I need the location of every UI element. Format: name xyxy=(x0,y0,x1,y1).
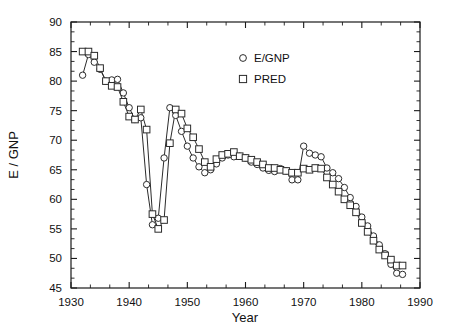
y-axis-title: E / GNP xyxy=(6,131,21,179)
data-point-square xyxy=(161,217,168,224)
x-tick-label: 1990 xyxy=(407,296,433,308)
y-tick-label: 65 xyxy=(49,164,62,176)
data-point-circle xyxy=(79,72,85,78)
data-point-square xyxy=(329,181,336,188)
data-point-circle xyxy=(295,177,301,183)
data-point-square xyxy=(138,106,145,113)
y-tick-label: 90 xyxy=(49,16,62,28)
y-tick-label: 70 xyxy=(49,134,62,146)
data-point-square xyxy=(399,262,406,269)
data-point-circle xyxy=(190,155,196,161)
y-tick-label: 45 xyxy=(49,282,62,294)
x-axis-tick-labels: 1930194019501960197019801990 xyxy=(58,296,433,308)
x-tick-label: 1980 xyxy=(349,296,375,308)
data-point-square xyxy=(184,125,191,132)
data-point-square xyxy=(353,209,360,216)
y-tick-label: 85 xyxy=(49,46,62,58)
data-point-square xyxy=(114,84,121,91)
data-point-circle xyxy=(318,154,324,160)
x-tick-label: 1950 xyxy=(175,296,201,308)
y-tick-label: 75 xyxy=(49,105,62,117)
data-point-square xyxy=(132,116,139,123)
data-point-square xyxy=(207,164,214,171)
y-axis-tick-labels: 45505560657075808590 xyxy=(49,16,62,294)
data-point-square xyxy=(149,211,156,218)
data-point-circle xyxy=(161,155,167,161)
data-point-circle xyxy=(394,270,400,276)
data-point-square xyxy=(364,229,371,236)
data-point-square xyxy=(97,65,104,72)
data-point-square xyxy=(167,140,174,147)
data-point-square xyxy=(370,237,377,244)
data-point-square xyxy=(347,202,354,209)
data-point-square xyxy=(178,110,185,117)
legend-marker-circle xyxy=(240,55,247,62)
legend-label: PRED xyxy=(254,73,286,85)
data-point-circle xyxy=(143,181,149,187)
chart-legend: E/GNPPRED xyxy=(239,52,290,85)
data-point-square xyxy=(324,174,331,181)
data-point-square xyxy=(335,188,342,195)
y-tick-label: 50 xyxy=(49,252,62,264)
data-point-circle xyxy=(300,143,306,149)
egnp-pred-line-chart: 1930194019501960197019801990 45505560657… xyxy=(0,0,460,331)
legend-label: E/GNP xyxy=(254,52,290,64)
series-markers-e-gnp xyxy=(79,51,405,277)
data-point-square xyxy=(190,134,197,141)
data-point-square xyxy=(359,220,366,227)
data-point-square xyxy=(318,165,325,172)
data-point-square xyxy=(120,99,127,106)
data-point-square xyxy=(143,126,150,133)
series-line-e-gnp xyxy=(83,55,403,275)
data-point-circle xyxy=(184,143,190,149)
x-axis-title: Year xyxy=(232,310,259,325)
x-tick-label: 1960 xyxy=(233,296,259,308)
x-tick-label: 1970 xyxy=(291,296,317,308)
data-point-circle xyxy=(114,76,120,82)
y-tick-label: 80 xyxy=(49,75,62,87)
data-point-square xyxy=(91,52,98,59)
x-tick-label: 1940 xyxy=(116,296,142,308)
legend-marker-square xyxy=(239,75,246,82)
x-tick-label: 1930 xyxy=(58,296,84,308)
y-tick-label: 55 xyxy=(49,223,62,235)
y-tick-label: 60 xyxy=(49,193,62,205)
data-point-square xyxy=(196,146,203,153)
data-point-circle xyxy=(399,271,405,277)
chart-figure: 1930194019501960197019801990 45505560657… xyxy=(0,0,460,331)
data-point-square xyxy=(155,226,162,233)
